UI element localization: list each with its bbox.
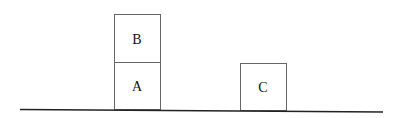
ground-line bbox=[20, 110, 383, 113]
block-b-label: B bbox=[132, 32, 141, 47]
blocks-diagram: B A C bbox=[0, 0, 405, 118]
block-a-label: A bbox=[132, 79, 143, 94]
block-c: C bbox=[241, 64, 287, 111]
block-c-label: C bbox=[258, 80, 267, 95]
block-a: A bbox=[115, 63, 161, 110]
block-b: B bbox=[115, 15, 161, 63]
